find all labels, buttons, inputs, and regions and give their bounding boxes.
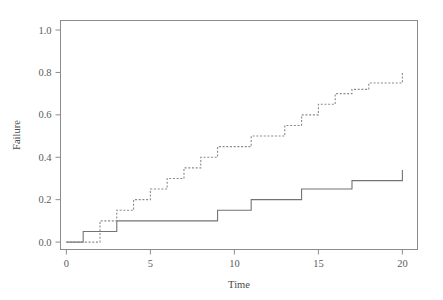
y-tick-label: 1.0	[38, 25, 51, 36]
chart-container: 05101520 0.00.20.40.60.81.0 Time Failure	[0, 0, 443, 300]
step-chart-svg: 05101520 0.00.20.40.60.81.0 Time Failure	[0, 0, 443, 300]
y-tick-label: 0.6	[38, 109, 51, 120]
y-tick-label: 0.8	[38, 67, 51, 78]
x-tick-label: 10	[229, 258, 240, 269]
x-tick-label: 0	[64, 258, 69, 269]
y-tick-label: 0.2	[38, 194, 51, 205]
y-axis-title: Failure	[11, 120, 22, 150]
x-tick-label: 5	[148, 258, 153, 269]
x-tick-label: 15	[313, 258, 324, 269]
y-tick-label: 0.0	[38, 237, 51, 248]
x-tick-label: 20	[397, 258, 408, 269]
y-tick-label: 0.4	[38, 152, 52, 163]
chart-background	[0, 0, 443, 300]
x-axis-title: Time	[228, 279, 250, 290]
